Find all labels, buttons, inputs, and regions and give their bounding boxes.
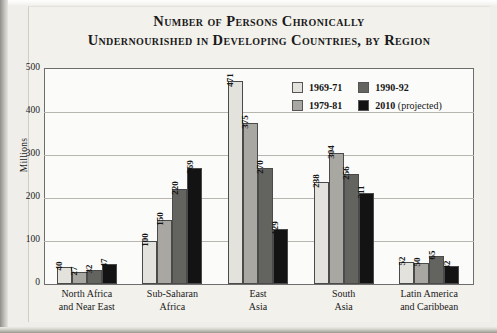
bar[interactable]: 269	[187, 168, 202, 284]
x-axis-category-line: Asia	[215, 301, 301, 314]
x-axis-category-line: South	[301, 288, 387, 301]
x-axis-category-label: Sub-SaharanAfrica	[130, 288, 216, 313]
bar-value-label: 42	[442, 260, 452, 269]
bar-group: 100150220269	[130, 68, 216, 284]
bar-slot: 220	[172, 68, 187, 284]
bar[interactable]: 100	[142, 241, 157, 284]
x-axis-category-label: EastAsia	[215, 288, 301, 313]
y-axis-tick-label: 0	[10, 277, 40, 287]
x-axis-category-line: Latin America	[386, 288, 472, 301]
x-axis-category-line: Africa	[130, 301, 216, 314]
bar-value-label: 129	[270, 221, 280, 235]
legend-swatch	[358, 100, 369, 111]
x-axis-labels: North Africaand Near EastSub-SaharanAfri…	[44, 288, 474, 313]
bar-slot: 270	[258, 68, 273, 284]
bar-value-label: 52	[397, 256, 407, 265]
x-axis-category-label: SouthAsia	[301, 288, 387, 313]
bar-slot: 100	[142, 68, 157, 284]
bar-group: 471375270129	[215, 68, 301, 284]
x-axis-category-line: North Africa	[44, 288, 130, 301]
bar-value-label: 40	[54, 261, 64, 270]
bar-value-label: 32	[84, 265, 94, 274]
bar-slot: 375	[243, 68, 258, 284]
bar[interactable]: 471	[228, 81, 243, 284]
bar-slot: 42	[444, 68, 459, 284]
y-axis-tick-label: 400	[10, 105, 40, 115]
x-axis-category-line: East	[215, 288, 301, 301]
legend-item[interactable]: 2010 (projected)	[358, 100, 441, 111]
y-axis-title: Millions	[19, 125, 29, 185]
chart-title-line-2: Undernourished in Developing Countries, …	[28, 31, 490, 50]
legend-swatch	[292, 100, 303, 111]
page-edge-left	[0, 0, 8, 333]
bar-value-label: 471	[225, 74, 235, 88]
bar-value-label: 150	[155, 212, 165, 226]
bar-value-label: 270	[255, 160, 265, 174]
bar-value-label: 211	[356, 186, 366, 199]
chart-page: Number of Persons Chronically Undernouri…	[0, 0, 497, 333]
bar-value-label: 304	[326, 146, 336, 160]
y-axis-tick-label: 200	[10, 191, 40, 201]
bar-slot: 129	[273, 68, 288, 284]
bar-slot: 40	[57, 68, 72, 284]
bar-value-label: 269	[185, 161, 195, 175]
legend-swatch	[292, 82, 303, 93]
bar[interactable]: 42	[444, 266, 459, 284]
chart-legend: 1969-711990-921979-812010 (projected)	[292, 82, 442, 111]
legend-label: 1979-81	[309, 100, 342, 111]
bar-value-label: 27	[69, 267, 79, 276]
legend-item[interactable]: 1990-92	[358, 82, 441, 93]
bar-value-label: 65	[427, 251, 437, 260]
bar-value-label: 256	[341, 166, 351, 180]
bar-slot: 150	[157, 68, 172, 284]
bar[interactable]: 50	[414, 263, 429, 285]
bar-value-label: 375	[240, 115, 250, 129]
bar-slot: 27	[72, 68, 87, 284]
bar[interactable]: 238	[314, 182, 329, 284]
x-axis-category-line: Asia	[301, 301, 387, 314]
bar[interactable]: 32	[87, 270, 102, 284]
y-axis-tick-label: 100	[10, 234, 40, 244]
bar-value-label: 220	[170, 182, 180, 196]
bar-value-label: 238	[311, 174, 321, 188]
bar-group: 40273247	[44, 68, 130, 284]
legend-label: 1969-71	[309, 82, 342, 93]
legend-swatch	[358, 82, 369, 93]
bar-value-label: 50	[412, 257, 422, 266]
bar-slot: 471	[228, 68, 243, 284]
bar[interactable]: 27	[72, 272, 87, 284]
chart-title-line-1: Number of Persons Chronically	[28, 12, 490, 31]
bar[interactable]: 47	[102, 264, 117, 284]
bar-value-label: 47	[99, 258, 109, 267]
bar[interactable]: 211	[359, 193, 374, 284]
chart-title: Number of Persons Chronically Undernouri…	[28, 12, 490, 50]
bar-slot: 269	[187, 68, 202, 284]
legend-item[interactable]: 1979-81	[292, 100, 342, 111]
legend-label: 2010 (projected)	[375, 100, 441, 111]
legend-item[interactable]: 1969-71	[292, 82, 342, 93]
page-edge-top	[0, 0, 497, 5]
legend-label-suffix: (projected)	[395, 100, 441, 111]
x-axis-category-label: Latin Americaand Caribbean	[386, 288, 472, 313]
bar[interactable]: 375	[243, 123, 258, 284]
x-axis-category-label: North Africaand Near East	[44, 288, 130, 313]
y-axis-tick-label: 500	[10, 62, 40, 72]
bar-value-label: 100	[140, 233, 150, 247]
page-edge-bottom	[0, 327, 497, 333]
legend-label: 1990-92	[375, 82, 408, 93]
x-axis-category-line: Sub-Saharan	[130, 288, 216, 301]
bar[interactable]: 129	[273, 229, 288, 284]
x-axis-category-line: and Near East	[44, 301, 130, 314]
bar-slot: 47	[102, 68, 117, 284]
x-axis-category-line: and Caribbean	[386, 301, 472, 314]
bar-slot: 32	[87, 68, 102, 284]
bar[interactable]: 220	[172, 189, 187, 284]
bar[interactable]: 150	[157, 220, 172, 285]
